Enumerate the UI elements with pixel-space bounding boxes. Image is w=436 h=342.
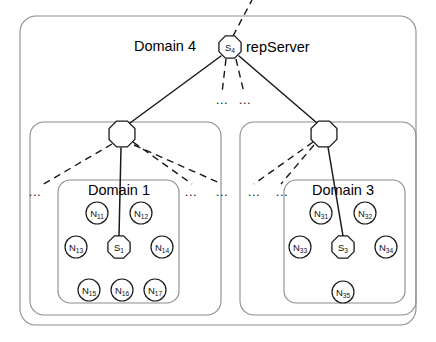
node-N35[interactable]: N35 [332, 281, 354, 303]
ellipsis-ell-d3-left-a: ... [248, 184, 260, 199]
container-domain4-outer [20, 16, 416, 325]
domain-topology-diagram: ..................... S4S1S3N11N12N13N14… [0, 0, 436, 342]
ellipsis-ell-d3-left-b: ... [276, 184, 288, 199]
domain-label-domain1-inner: Domain 1 [88, 182, 150, 198]
edge-e-s4-r3 [239, 56, 317, 123]
node-R1[interactable] [109, 121, 135, 147]
node-N12[interactable]: N12 [130, 202, 152, 224]
label-layer: Domain 4Domain 1Domain 3repServer [88, 38, 374, 198]
node-N33[interactable]: N33 [289, 236, 311, 258]
node-shape-R1 [109, 121, 135, 147]
edge-e-r3-l1 [254, 142, 313, 184]
node-R3[interactable] [311, 121, 337, 147]
ellipsis-ell-s4-b: ... [239, 92, 251, 107]
ellipsis-ell-s4-a: ... [216, 92, 228, 107]
edge-e-r3-l2 [281, 145, 314, 184]
node-N16[interactable]: N16 [111, 279, 133, 301]
annotation-repserver-label: repServer [246, 39, 310, 55]
node-N11[interactable]: N11 [86, 202, 108, 224]
ellipsis-ell-d1-right-b: ... [216, 184, 228, 199]
node-N31[interactable]: N31 [310, 202, 332, 224]
node-N34[interactable]: N34 [375, 236, 397, 258]
edge-e-r1-r2 [134, 145, 222, 184]
edge-e-s4-r1 [130, 56, 221, 123]
edge-e-r1-l1 [42, 144, 112, 185]
edge-e-s4-d2 [236, 59, 244, 93]
node-S3[interactable]: S3 [332, 236, 354, 258]
edge-e-r1-r1 [133, 142, 192, 184]
edge-layer [42, 0, 343, 236]
node-S1[interactable]: S1 [108, 236, 130, 258]
node-layer: S4S1S3N11N12N13N14N15N16N17N31N32N33N34N… [65, 36, 397, 303]
container-layer [20, 16, 416, 325]
node-N14[interactable]: N14 [151, 236, 173, 258]
diagram-canvas: ..................... S4S1S3N11N12N13N14… [0, 0, 436, 342]
ellipsis-layer: ..................... [29, 92, 288, 199]
domain-label-domain3-inner: Domain 3 [312, 182, 374, 198]
node-N13[interactable]: N13 [65, 236, 87, 258]
edge-e-s4-d1 [222, 59, 226, 93]
edge-e-s4-up [233, 0, 252, 36]
ellipsis-ell-left-outer: ... [29, 184, 41, 199]
ellipsis-ell-d1-right-a: ... [185, 184, 197, 199]
domain-label-domain4-outer: Domain 4 [134, 38, 196, 54]
node-N17[interactable]: N17 [144, 279, 166, 301]
node-N15[interactable]: N15 [78, 279, 100, 301]
node-shape-R3 [311, 121, 337, 147]
node-S4[interactable]: S4 [219, 36, 241, 58]
node-N32[interactable]: N32 [354, 202, 376, 224]
